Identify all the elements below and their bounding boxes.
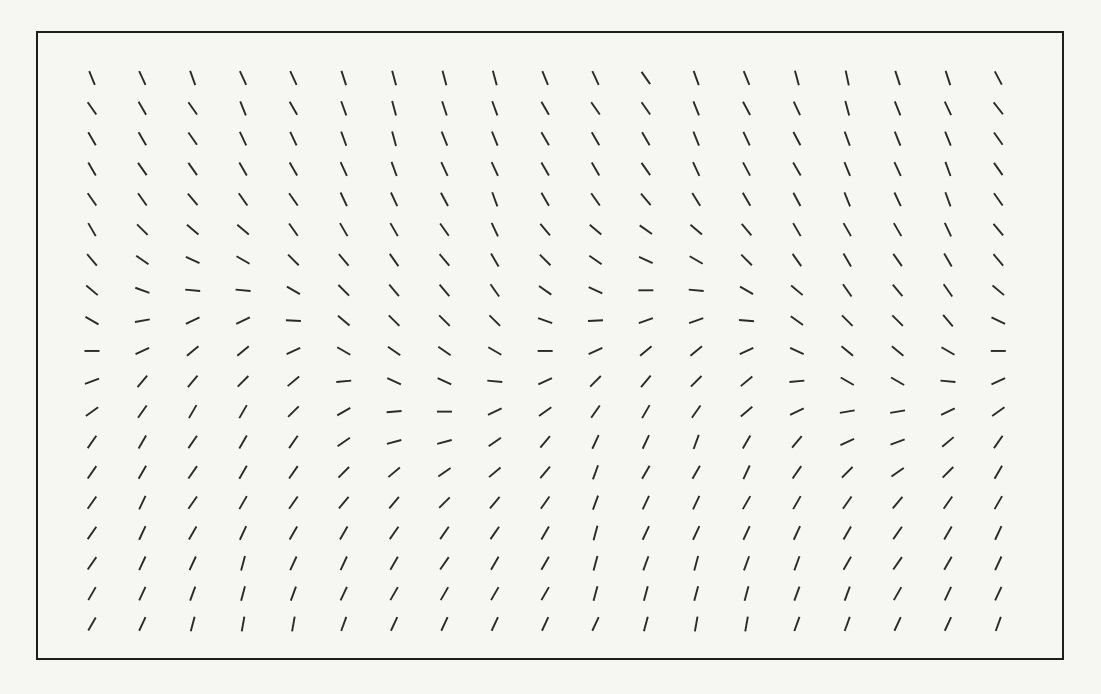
orientation-segment <box>289 496 298 508</box>
orientation-segment <box>741 255 752 266</box>
orientation-segment <box>287 287 300 295</box>
orientation-segment <box>944 557 952 570</box>
orientation-segment <box>743 435 751 448</box>
orientation-segment <box>790 408 804 414</box>
orientation-segment <box>241 586 245 600</box>
orientation-segment <box>387 378 401 384</box>
orientation-segment <box>241 556 245 570</box>
orientation-segment <box>237 256 250 264</box>
orientation-segment <box>740 348 754 354</box>
orientation-segment <box>340 526 348 539</box>
orientation-segment <box>139 102 147 115</box>
orientation-segment <box>190 556 196 570</box>
orientation-segment <box>289 466 298 478</box>
orientation-segment <box>86 407 98 416</box>
orientation-segment <box>692 466 700 479</box>
orientation-segment <box>236 290 251 291</box>
orientation-segment <box>538 318 552 323</box>
orientation-segment <box>992 317 1006 323</box>
orientation-segment <box>640 225 652 234</box>
orientation-segment <box>286 320 301 321</box>
orientation-segment <box>994 102 1003 114</box>
orientation-segment <box>191 617 195 631</box>
orientation-segment <box>392 71 396 85</box>
orientation-segment <box>994 133 1003 145</box>
orientation-segment <box>689 318 703 323</box>
orientation-segment <box>642 102 651 114</box>
orientation-segment <box>139 617 145 631</box>
orientation-segment <box>739 320 754 321</box>
orientation-segment <box>794 102 800 116</box>
orientation-segment <box>845 617 850 631</box>
orientation-segment <box>743 162 750 175</box>
orientation-segment <box>794 617 799 631</box>
orientation-segment <box>995 71 1002 84</box>
orientation-segment <box>289 436 298 448</box>
orientation-segment <box>744 71 750 85</box>
orientation-segment <box>541 496 550 508</box>
orientation-segment <box>440 254 450 266</box>
orientation-segment <box>186 317 200 323</box>
orientation-segment <box>894 587 902 600</box>
orientation-segment <box>390 527 399 539</box>
orientation-segment <box>188 102 197 114</box>
orientation-segment <box>993 254 1003 266</box>
orientation-segment <box>442 132 448 146</box>
orientation-segment <box>890 410 905 413</box>
orientation-segment <box>944 496 953 508</box>
orientation-segment <box>693 101 699 115</box>
orientation-segment <box>845 587 850 601</box>
orientation-segment <box>592 617 598 631</box>
orientation-segment <box>744 556 749 570</box>
orientation-segment <box>87 254 97 266</box>
orientation-segment <box>287 348 301 354</box>
orientation-segment <box>88 587 96 600</box>
orientation-segment <box>591 193 600 205</box>
orientation-segment <box>443 71 447 85</box>
orientation-segment <box>789 381 804 382</box>
orientation-segment <box>85 379 99 384</box>
orientation-segment <box>588 320 603 321</box>
orientation-segment <box>491 587 499 600</box>
orientation-segment <box>389 285 399 297</box>
orientation-segment <box>743 496 751 509</box>
orientation-segment <box>943 315 953 327</box>
orientation-segment <box>692 193 700 206</box>
orientation-segment <box>389 497 399 509</box>
orientation-segment <box>88 557 97 569</box>
orientation-segment <box>188 496 197 508</box>
orientation-segment <box>639 257 653 263</box>
orientation-segment <box>893 497 903 509</box>
orientation-segment <box>237 346 249 356</box>
orientation-segment <box>644 617 648 631</box>
orientation-segment <box>290 526 298 539</box>
orientation-segment <box>489 467 501 477</box>
orientation-segment <box>488 347 501 355</box>
orientation-segment <box>338 438 350 447</box>
orientation-segment <box>841 378 854 386</box>
orientation-segment <box>743 132 749 146</box>
orientation-segment <box>642 466 650 479</box>
orientation-segment <box>844 192 850 206</box>
orientation-segment <box>441 587 449 600</box>
orientation-segment <box>239 193 248 205</box>
orientation-segment <box>341 193 347 207</box>
orientation-segment <box>288 406 299 417</box>
orientation-segment <box>492 617 498 631</box>
orientation-segment <box>440 527 449 539</box>
orientation-segment <box>694 435 699 449</box>
orientation-segment <box>391 193 397 207</box>
orientation-segment <box>187 225 199 235</box>
orientation-segment <box>844 223 852 236</box>
orientation-segment <box>392 162 397 176</box>
orientation-segment <box>190 587 195 601</box>
orientation-segment <box>992 378 1006 384</box>
orientation-segment <box>693 526 699 540</box>
orientation-segment <box>592 162 600 175</box>
orientation-segment <box>593 465 598 479</box>
orientation-segment <box>745 586 749 600</box>
orientation-segment <box>139 435 147 448</box>
orientation-segment <box>694 586 698 600</box>
orientation-segment <box>995 496 1003 509</box>
orientation-segment <box>387 440 401 444</box>
